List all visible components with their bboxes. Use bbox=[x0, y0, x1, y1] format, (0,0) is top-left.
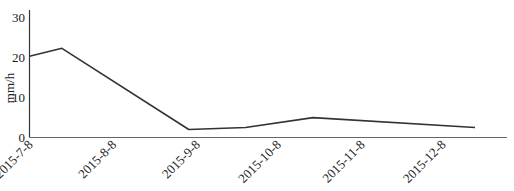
x-tick-label: 2015-10-8 bbox=[235, 137, 284, 186]
data-line bbox=[30, 48, 476, 129]
x-tick-label: 2015-11-8 bbox=[319, 137, 368, 186]
x-tick-label: 2015-7-8 bbox=[0, 137, 36, 181]
y-tick-label: 20 bbox=[12, 50, 25, 65]
x-tick-labels: 2015-7-82015-8-82015-9-82015-10-82015-11… bbox=[0, 137, 449, 186]
x-tick-label: 2015-12-8 bbox=[400, 137, 449, 186]
y-axis-title: mm/h bbox=[2, 72, 17, 103]
x-tick-label: 2015-9-8 bbox=[159, 137, 203, 181]
line-chart: 0102030 mm/h 2015-7-82015-8-82015-9-8201… bbox=[0, 0, 514, 191]
y-tick-label: 30 bbox=[12, 10, 25, 25]
x-tick-label: 2015-8-8 bbox=[75, 137, 119, 181]
